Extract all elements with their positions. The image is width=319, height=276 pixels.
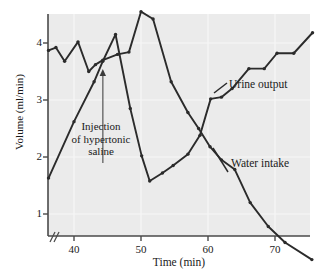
data-point [47,49,50,52]
annotation-line-1: Injection [58,120,144,133]
data-point [198,134,201,137]
y-tick-label-1: 1 [20,207,42,219]
leader-urine [214,83,227,93]
data-point [94,63,97,66]
x-tick-label-70: 70 [260,243,290,255]
x-tick-label-60: 60 [193,243,223,255]
chart-canvas [0,0,319,276]
data-point [186,152,189,155]
data-point [186,111,189,114]
data-point [209,97,212,100]
data-point [169,80,172,83]
data-point [47,176,50,179]
data-point [208,145,211,148]
data-point [171,164,174,167]
data-point [76,40,79,43]
data-point [220,95,223,98]
data-point [54,46,57,49]
data-point [148,179,151,182]
data-point [311,31,314,34]
data-point [249,201,252,204]
x-tick-label-40: 40 [59,243,89,255]
data-point [92,80,95,83]
data-point [267,225,270,228]
chart-figure: 4 3 2 1 40 50 60 70 Volume (ml/min) Time… [0,0,319,276]
annotation-line-3: saline [58,145,144,158]
injection-annotation-text: Injection of hypertonic saline [58,120,144,158]
x-axis-title: Time (min) [48,256,310,268]
x-tick-label-50: 50 [126,243,156,255]
data-point [87,70,90,73]
series-label-water-intake: Water intake [231,157,289,169]
data-point [275,52,278,55]
leader-water [213,148,228,172]
data-point [263,67,266,70]
data-point [139,10,142,13]
data-point [161,171,164,174]
data-point [197,127,200,130]
data-point [63,60,66,63]
annotation-line-2: of hypertonic [58,133,144,146]
data-point [151,17,154,20]
series-label-urine-output: Urine output [229,78,287,90]
data-point [310,258,313,261]
data-point [292,52,295,55]
data-point [101,60,104,63]
data-point [247,67,250,70]
data-point [129,107,132,110]
y-axis-title: Volume (ml/min) [13,47,25,177]
data-point [127,50,130,53]
data-point [114,33,117,36]
